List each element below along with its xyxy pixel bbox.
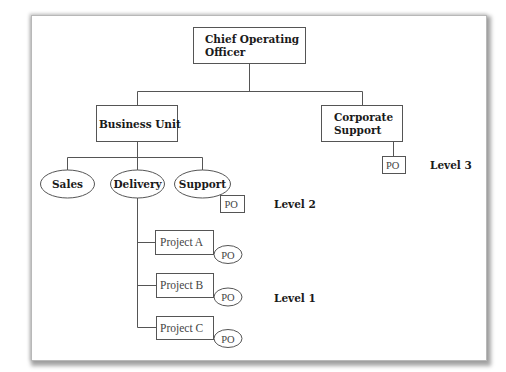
corporate-support-label-line1: Corporate	[334, 111, 393, 123]
project-b-label: Project B	[160, 279, 203, 292]
po-project-a: PO	[214, 246, 242, 264]
org-chart: Chief Operating Officer Business Unit Co…	[0, 0, 506, 372]
project-c-label: Project C	[160, 322, 203, 335]
po-label: PO	[225, 199, 239, 210]
node-business-unit: Business Unit	[97, 106, 181, 142]
delivery-label: Delivery	[113, 178, 162, 190]
po-project-b: PO	[214, 288, 242, 306]
po-support: PO	[221, 196, 245, 213]
po-label: PO	[221, 292, 235, 303]
node-support: Support	[175, 170, 231, 198]
support-label: Support	[179, 178, 226, 190]
node-project-c: Project C	[157, 317, 214, 340]
po-label: PO	[386, 160, 400, 171]
level-2-label: Level 2	[274, 198, 316, 210]
business-unit-label: Business Unit	[99, 118, 181, 130]
corporate-support-label-line2: Support	[334, 124, 381, 136]
level-1-label: Level 1	[274, 292, 316, 304]
node-delivery: Delivery	[111, 170, 165, 198]
node-chief-operating-officer: Chief Operating Officer	[194, 28, 306, 64]
po-label: PO	[221, 334, 235, 345]
node-project-a: Project A	[156, 231, 214, 255]
level-3-label: Level 3	[430, 159, 472, 171]
po-project-c: PO	[214, 330, 242, 348]
po-label: PO	[221, 250, 235, 261]
node-project-b: Project B	[157, 274, 214, 298]
node-corporate-support: Corporate Support	[322, 106, 403, 142]
sales-label: Sales	[52, 178, 83, 190]
project-a-label: Project A	[160, 236, 204, 249]
node-sales: Sales	[41, 170, 95, 198]
po-corporate-support: PO	[383, 157, 406, 174]
coo-label-line1: Chief Operating	[205, 33, 300, 45]
coo-label-line2: Officer	[205, 46, 246, 58]
